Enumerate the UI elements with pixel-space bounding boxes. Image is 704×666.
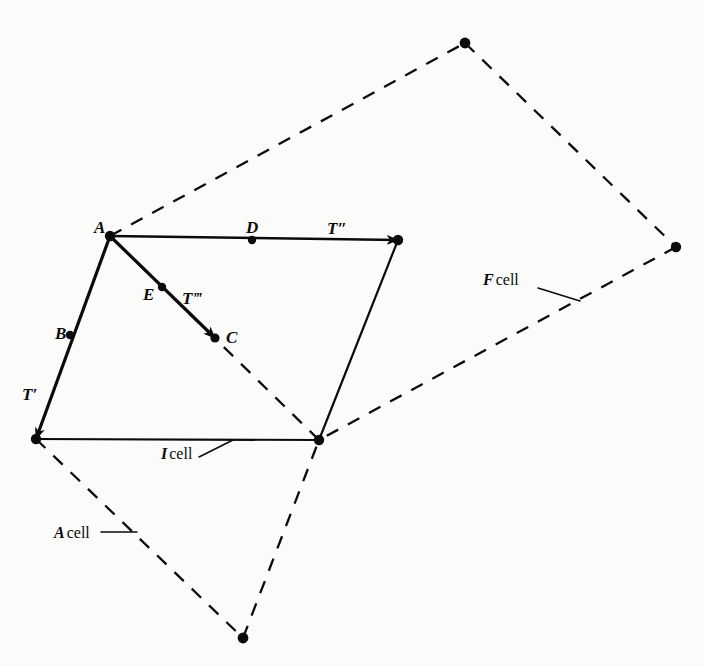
bleed-bleed-caption-1 <box>8 570 13 589</box>
dashed-bottom-to-center <box>243 440 319 638</box>
point-label-C: C <box>226 329 237 346</box>
cell-word: cell <box>169 445 192 462</box>
bleed-bleed-caption-2 <box>8 596 13 615</box>
callout-leader-lines <box>101 288 580 532</box>
point-E <box>158 283 166 291</box>
cell-symbol: F <box>483 271 496 288</box>
vertex-right <box>671 242 681 252</box>
edge-lower-left-to-center <box>36 439 319 440</box>
dashed-top-to-right <box>465 43 676 247</box>
leader-F-cell <box>538 288 580 301</box>
edge-center-to-upper-right <box>319 240 398 440</box>
bleed-bleed-top <box>40 6 45 25</box>
point-label-A: A <box>94 219 105 236</box>
vector-label-T-prime: T′ <box>22 386 37 403</box>
cell-label-A-cell: Acell <box>54 525 90 541</box>
cell-symbol: I <box>161 445 169 462</box>
vertex-center <box>314 435 324 445</box>
point-label-D: D <box>246 219 258 236</box>
cell-label-I-cell: Icell <box>161 446 192 462</box>
leader-I-cell <box>199 440 233 457</box>
point-label-B: B <box>55 325 66 342</box>
vertex-lower-left <box>31 434 41 444</box>
point-D <box>248 236 256 244</box>
vector-label-T-double-prime: T″ <box>327 220 347 237</box>
vertex-A <box>105 231 115 241</box>
figure-canvas: ABCDE T′T″T‴ FcellIcellAcell <box>0 0 704 666</box>
lattice-diagram-svg <box>0 0 704 666</box>
point-label-E: E <box>143 286 154 303</box>
cell-symbol: A <box>54 524 67 541</box>
vertex-top <box>460 38 471 49</box>
cell-label-F-cell: Fcell <box>483 272 519 288</box>
cell-word: cell <box>496 271 519 288</box>
dashed-A-to-top <box>110 43 465 236</box>
vector-label-T-triple-prime: T‴ <box>182 290 202 307</box>
vertex-upper-right <box>393 235 403 245</box>
dashed-cell-outlines <box>36 43 676 638</box>
point-C <box>210 333 219 342</box>
lattice-point-markers <box>31 38 681 644</box>
vertex-bottom <box>238 633 249 644</box>
cell-word: cell <box>67 524 90 541</box>
point-B <box>66 331 74 339</box>
